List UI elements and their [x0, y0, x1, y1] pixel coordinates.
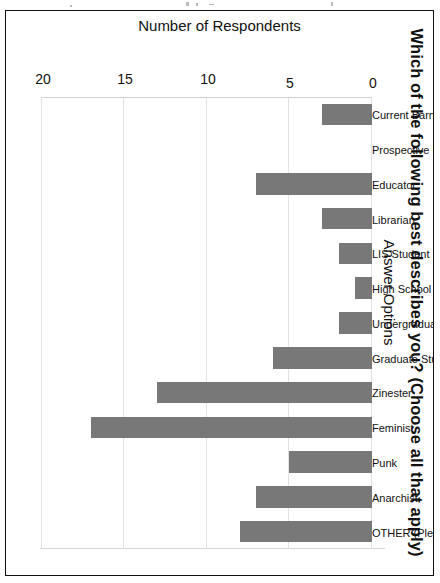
y-tick-label: 0: [366, 63, 380, 87]
y-tick-label-text: 0: [369, 76, 377, 90]
bar: [323, 208, 373, 230]
category-label: Feminist: [372, 422, 414, 434]
scan-artifact-strip: [0, 0, 440, 9]
rotated-chart: Which of the following best describes yo…: [7, 11, 432, 574]
bar: [356, 277, 373, 299]
y-tick-label-text: 10: [200, 72, 216, 86]
category-label: Punk: [372, 457, 397, 469]
y-tick-label: 15: [119, 63, 133, 87]
bar: [273, 347, 372, 369]
y-tick-label-text: 15: [118, 72, 134, 86]
category-label: Educator: [372, 179, 416, 191]
bar: [339, 243, 372, 265]
category-label: Current Barnard/Columbia community membe…: [372, 109, 434, 121]
category-label: Graduate Student: [372, 353, 434, 365]
scanned-chart-page: Which of the following best describes yo…: [0, 0, 440, 583]
category-labels: Current Barnard/Columbia community membe…: [372, 97, 432, 549]
category-label: Anarchist: [372, 492, 418, 504]
scan-line-artifact: [40, 548, 385, 549]
y-tick-label: 20: [36, 63, 50, 87]
category-label: Librarian: [372, 214, 415, 226]
plot-area: [42, 97, 372, 549]
bar: [257, 173, 373, 195]
chart-stage: Which of the following best describes yo…: [5, 10, 434, 576]
y-axis-title: Number of Respondents: [7, 15, 432, 35]
bar: [339, 312, 372, 334]
bar: [290, 451, 373, 473]
bar-series: [42, 97, 372, 549]
bar: [240, 521, 372, 543]
y-tick-label: 5: [284, 63, 298, 87]
category-label: LIS Student: [372, 248, 430, 260]
y-axis-line: [42, 97, 372, 98]
category-label: High School Student: [372, 283, 434, 295]
category-label: Zinester: [372, 387, 412, 399]
y-tick-label-text: 20: [35, 72, 51, 86]
y-tick-label-text: 5: [287, 76, 295, 90]
category-label: Prospective Barnard/Columbia community m…: [372, 144, 434, 156]
category-label: Undergraduate Student: [372, 318, 434, 330]
bar: [257, 486, 373, 508]
bar: [323, 104, 373, 126]
bar: [92, 417, 373, 439]
bar: [158, 382, 373, 404]
y-tick-label: 10: [201, 63, 215, 87]
category-label: OTHER (Please Specify):: [372, 527, 434, 539]
